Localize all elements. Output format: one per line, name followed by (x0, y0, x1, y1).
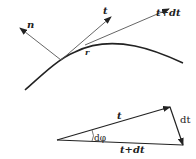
tangent-vector-diagram: n t t+dt r t dt dφ t+dt (0, 0, 196, 159)
angle-label: dφ (94, 133, 106, 143)
triangle-side-t (57, 107, 170, 140)
tangent-label: t (103, 5, 108, 16)
normal-vector-arrow (20, 28, 61, 60)
triangle-dt-label: dt (180, 114, 190, 125)
triangle-side-dt (170, 107, 183, 145)
point-label: r (85, 47, 90, 57)
normal-label: n (27, 19, 34, 30)
triangle-t-dt-label: t+dt (120, 144, 145, 155)
tangent-next-label: t+dt (156, 7, 181, 18)
triangle-t-label: t (117, 110, 122, 121)
